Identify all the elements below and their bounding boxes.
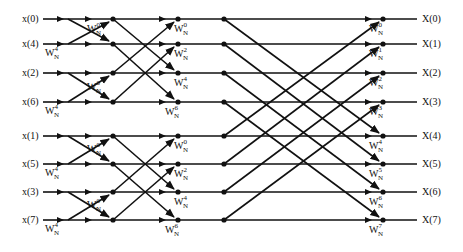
twiddle-subscript: N [378,230,383,238]
input-label: x(2) [22,68,39,78]
twiddle-exponent: 6 [174,104,178,112]
arrow-icon [57,41,64,47]
arrow-icon [159,217,166,223]
twiddle-factor-label: W0N [87,24,105,34]
twiddle-exponent: 0 [183,21,187,29]
output-label: X(2) [422,68,441,78]
twiddle-subscript: N [183,29,188,37]
twiddle-factor-label: W2N [174,49,192,59]
arrow-icon [365,217,372,223]
output-label: X(5) [422,159,441,169]
input-label: x(6) [22,97,39,107]
node-dot [110,189,115,194]
arrow-icon [85,161,92,167]
arrow-icon [365,133,372,139]
twiddle-exponent: 4 [183,75,187,83]
twiddle-exponent: 0 [96,197,100,205]
node-dot [221,217,226,222]
node-dot [175,41,180,46]
twiddle-factor-label: W5N [369,169,387,179]
arrow-icon [85,70,92,76]
arrow-icon [57,133,64,139]
arrow-icon [57,99,64,105]
twiddle-exponent: 4 [54,103,58,111]
arrow-icon [365,70,372,76]
twiddle-subscript: N [378,146,383,154]
arrow-icon [85,99,92,105]
twiddle-exponent: 7 [378,222,382,230]
twiddle-factor-label: W0N [174,141,192,151]
arrow-icon [159,133,166,139]
butterfly-cross-line [224,47,379,164]
twiddle-factor-label: W0N [369,24,387,34]
output-label: X(3) [422,97,441,107]
twiddle-exponent: 3 [378,104,382,112]
twiddle-factor-label: W6N [369,197,387,207]
twiddle-exponent: 1 [378,46,382,54]
butterfly-cross-line [224,76,379,192]
input-label: x(0) [22,14,39,24]
arrow-icon [365,99,372,105]
twiddle-factor-label: W4N [45,224,63,234]
node-dot [110,217,115,222]
twiddle-subscript: N [183,83,188,91]
arrow-icon [365,16,372,22]
output-label: X(4) [422,131,441,141]
arrow-icon [365,161,372,167]
signal-flow-lines [43,16,417,223]
input-label: x(3) [22,187,39,197]
node-dot [175,133,180,138]
input-label: x(4) [22,39,39,49]
butterfly-cross-line [113,47,174,102]
twiddle-factor-label: W2N [174,169,192,179]
twiddle-subscript: N [378,83,383,91]
node-dot [221,41,226,46]
arrow-icon [159,99,166,105]
input-label: x(7) [22,215,39,225]
twiddle-exponent: 2 [183,166,187,174]
twiddle-exponent: 0 [183,138,187,146]
node-dot [175,161,180,166]
input-label: x(5) [22,159,39,169]
twiddle-exponent: 4 [183,194,187,202]
butterfly-cross-line [224,73,379,189]
output-label: X(1) [422,39,441,49]
twiddle-factor-label: W0N [87,144,105,154]
input-label: x(1) [22,131,39,141]
arrow-icon [85,133,92,139]
butterfly-cross-line [113,167,174,220]
twiddle-subscript: N [54,173,59,181]
node-dot [110,133,115,138]
node-dot [110,161,115,166]
node-dot [221,70,226,75]
twiddle-factor-label: W4N [45,168,63,178]
twiddle-exponent: 4 [54,165,58,173]
twiddle-factor-label: W0N [174,24,192,34]
arrow-icon [85,41,92,47]
twiddle-factor-label: W4N [174,197,192,207]
twiddle-factor-label: W4N [369,141,387,151]
twiddle-exponent: 0 [96,141,100,149]
twiddle-subscript: N [183,54,188,62]
twiddle-subscript: N [378,112,383,120]
twiddle-subscript: N [174,112,179,120]
twiddle-exponent: 0 [96,21,100,29]
twiddle-subscript: N [54,111,59,119]
twiddle-subscript: N [183,174,188,182]
arrow-icon [85,16,92,22]
node-dot [110,41,115,46]
node-dot [221,189,226,194]
twiddle-exponent: 4 [54,45,58,53]
node-dot [175,16,180,21]
butterfly-cross-line [113,44,174,99]
twiddle-subscript: N [378,54,383,62]
twiddle-subscript: N [54,53,59,61]
arrow-icon [159,41,166,47]
node-dot [110,99,115,104]
twiddle-exponent: 6 [378,194,382,202]
node-dot [221,16,226,21]
twiddle-exponent: 2 [183,46,187,54]
node-dot [175,70,180,75]
twiddle-exponent: 2 [378,75,382,83]
node-dot [175,189,180,194]
